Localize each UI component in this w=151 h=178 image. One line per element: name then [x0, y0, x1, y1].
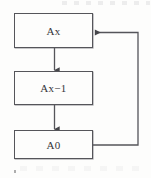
node-a0-label: A0 — [15, 139, 92, 151]
edge-a0-to-ax-feedback — [93, 33, 138, 146]
node-a0[interactable]: A0 — [14, 130, 93, 159]
node-ax-minus-1[interactable]: Ax−1 — [14, 71, 93, 105]
node-ax[interactable]: Ax — [14, 13, 93, 48]
node-ax-label: Ax — [15, 25, 92, 37]
diagram-canvas: Ax Ax−1 A0 — [0, 0, 151, 178]
node-ax-minus-1-label: Ax−1 — [15, 82, 92, 94]
